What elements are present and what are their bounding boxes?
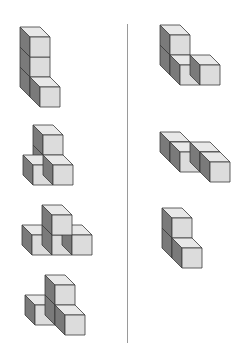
cube-front-face [43,135,63,155]
cube-front-face [172,218,192,238]
cube-front-face [55,285,75,305]
cube-front-face [170,35,190,55]
figure-left-3 [22,205,92,255]
cube [55,305,85,335]
cube [30,77,60,107]
cube-front-face [182,248,202,268]
figure-right-1 [160,25,220,85]
cube-front-face [65,315,85,335]
cube [200,152,230,182]
figure-left-4 [25,275,85,335]
cube-front-face [200,65,220,85]
cube-diagram [0,0,237,364]
cube-front-face [40,87,60,107]
figure-left-2 [23,125,73,185]
cube [172,238,202,268]
column-divider [127,24,128,343]
cube-front-face [210,162,230,182]
figure-right-2 [160,132,230,182]
cube-figures-canvas [0,0,237,364]
cube-front-face [53,165,73,185]
cube-front-face [30,37,50,57]
figure-left-1 [20,27,60,107]
cube-front-face [72,235,92,255]
figure-right-3 [162,208,202,268]
cube-front-face [52,215,72,235]
cube-front-face [30,57,50,77]
